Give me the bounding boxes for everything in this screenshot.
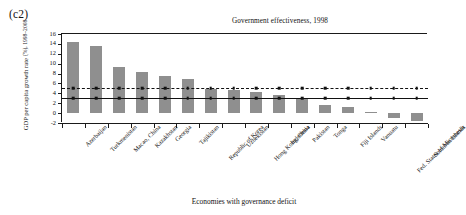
x-axis-category-label: Solomon Islands [432,124,466,158]
reference-point-marker [118,87,121,90]
reference-point-marker [415,97,418,100]
reference-point-marker [209,97,212,100]
reference-point-marker [370,87,373,90]
reference-point-marker [141,87,144,90]
y-axis-tick: 12 [58,54,62,55]
reference-point-marker [187,87,190,90]
bar [67,42,79,113]
y-axis-tick: 8 [58,74,62,75]
reference-point-marker [255,97,258,100]
reference-point-marker [255,87,258,90]
y-axis-tick-label: -2 [51,120,56,126]
bar [319,105,331,113]
reference-point-marker [72,87,75,90]
y-axis-title-line2: (%), 1998–2008 [23,20,29,56]
bar [113,67,125,113]
y-axis-tick-label: 2 [53,100,56,106]
bar [388,113,400,117]
y-axis-tick: 6 [58,83,62,84]
reference-point-marker [209,87,212,90]
reference-point-marker [118,97,121,100]
plot-area: 1614121086420-2 [61,33,427,122]
bar [159,76,171,114]
x-axis-category-label: Tonga [333,124,349,140]
reference-point-marker [370,97,373,100]
upper-dashed-reference [62,88,428,89]
y-axis-tick: 4 [58,93,62,94]
reference-point-marker [164,97,167,100]
panel-label: (c2) [9,8,28,20]
reference-point-marker [324,87,327,90]
lower-solid-reference [62,98,428,99]
reference-point-marker [415,87,418,90]
chart-title: Government effectiveness, 1998 [160,17,400,25]
reference-point-marker [324,97,327,100]
y-axis-title-line1: GDP per capita growth rate [23,58,30,130]
reference-point-marker [278,97,281,100]
bar [296,98,308,113]
bar [342,107,354,113]
bar [411,113,423,120]
reference-point-marker [347,97,350,100]
y-axis-tick-label: 12 [50,50,56,56]
bar [228,90,240,113]
reference-point-marker [141,97,144,100]
y-axis-tick: 2 [58,103,62,104]
bar [90,46,102,113]
y-axis-tick-label: 10 [50,60,56,66]
y-axis-tick-label: 6 [53,80,56,86]
y-axis-tick-label: 14 [50,40,56,46]
reference-point-marker [95,87,98,90]
reference-point-marker [232,87,235,90]
plot-inner: 1614121086420-2 [62,34,427,122]
reference-point-marker [301,87,304,90]
reference-point-marker [392,87,395,90]
x-axis-category-label: Indonesia [289,124,311,146]
reference-point-marker [164,87,167,90]
y-axis-tick: 0 [58,113,62,114]
reference-point-marker [72,97,75,100]
bar [365,112,377,113]
y-axis-tick: 14 [58,44,62,45]
x-axis-tick [428,124,429,128]
y-axis-tick: 10 [58,64,62,65]
x-axis-category-label: Azerbaijan [85,124,109,148]
y-axis-tick-label: 0 [53,110,56,116]
reference-point-marker [301,97,304,100]
x-axis-category-label: Tajikistan [198,124,220,146]
x-axis-category-labels: AzerbaijanTurkmenistanMacao, ChinaKazakh… [61,124,427,194]
reference-point-marker [347,87,350,90]
bar [136,72,148,113]
bar [205,89,217,113]
bar [250,92,262,113]
x-axis-category-label: Pakistan [311,124,331,144]
reference-point-marker [232,97,235,100]
y-axis-tick-label: 4 [53,90,56,96]
reference-point-marker [392,97,395,100]
y-axis-tick-label: 8 [53,70,56,76]
y-axis-tick-label: 16 [50,31,56,37]
reference-point-marker [278,87,281,90]
reference-point-marker [95,97,98,100]
x-axis-caption: Economies with governance deficit [61,197,427,206]
y-axis-tick: 16 [58,34,62,35]
reference-point-marker [187,97,190,100]
